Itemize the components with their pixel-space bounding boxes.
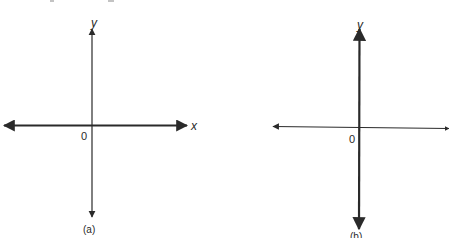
y-axis-label-a: y (90, 16, 98, 30)
figure-canvas: y x 0 (a) y 0 (b) (0, 0, 450, 238)
panel-b: y 0 (b) (273, 18, 449, 238)
y-axis-b (359, 29, 360, 229)
caption-b: (b) (350, 231, 362, 238)
panel-a: y x 0 (a) (4, 16, 198, 235)
origin-label-b: 0 (349, 133, 355, 145)
origin-label-a: 0 (81, 130, 87, 142)
cropped-top-text (50, 0, 114, 2)
y-axis-label-b: y (356, 18, 364, 32)
x-axis-label-a: x (190, 119, 198, 133)
caption-a: (a) (83, 224, 95, 235)
x-axis-b (273, 127, 449, 129)
